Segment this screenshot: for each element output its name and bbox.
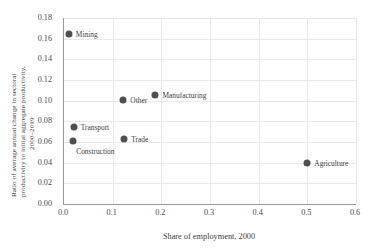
gridline-vertical [259, 18, 260, 204]
gridline-vertical [210, 18, 211, 204]
x-tick-label: 0.0 [50, 208, 76, 217]
data-point [120, 97, 127, 104]
gridline-horizontal [64, 80, 356, 81]
y-tick-label: 0.10 [38, 96, 52, 105]
data-point-label: Manufacturing [162, 90, 206, 99]
x-tick-label: 0.4 [245, 208, 271, 217]
y-axis-title-line-3: 2000–2019 [28, 117, 37, 150]
gridline-horizontal [64, 18, 356, 19]
x-tick-label: 0.5 [293, 208, 319, 217]
y-tick-label: 0.16 [38, 34, 52, 43]
gridline-vertical [307, 18, 308, 204]
y-tick-label: 0.12 [38, 75, 52, 84]
x-tick-label: 0.3 [196, 208, 222, 217]
gridline-vertical [356, 18, 357, 204]
data-point-label: Agriculture [314, 159, 348, 168]
y-tick-label: 0.04 [38, 158, 52, 167]
x-tick-label: 0.2 [147, 208, 173, 217]
y-axis-title-line-1: Ratio of average annual change in sector… [10, 73, 19, 197]
y-axis-title-line-2: productivity to initial aggregate produc… [19, 66, 28, 197]
y-tick-label: 0.14 [38, 54, 52, 63]
gridline-vertical [161, 18, 162, 204]
y-tick-label: 0.18 [38, 13, 52, 22]
x-tick-label: 0.1 [99, 208, 125, 217]
gridline-horizontal [64, 59, 356, 60]
data-point [152, 91, 159, 98]
scatter-chart: Ratio of average annual change in sector… [0, 0, 370, 251]
y-tick-label: 0.02 [38, 178, 52, 187]
data-point-label: Transport [81, 123, 109, 132]
gridline-horizontal [64, 39, 356, 40]
plot-area [63, 18, 356, 205]
gridline-horizontal [64, 101, 356, 102]
data-point [304, 160, 311, 167]
y-tick-label: 0.06 [38, 137, 52, 146]
y-tick-label: 0.08 [38, 116, 52, 125]
data-point [70, 124, 77, 131]
gridline-vertical [113, 18, 114, 204]
gridline-horizontal [64, 142, 356, 143]
x-tick-label: 0.6 [342, 208, 368, 217]
data-point-label: Trade [131, 134, 148, 143]
gridline-horizontal [64, 163, 356, 164]
data-point-label: Other [130, 96, 147, 105]
x-axis-title: Share of employment, 2000 [63, 232, 355, 241]
data-point [65, 31, 72, 38]
data-point [70, 138, 77, 145]
y-axis-title: Ratio of average annual change in sector… [0, 0, 22, 200]
y-tick-label: 0.00 [38, 199, 52, 208]
data-point-label: Construction [76, 147, 114, 156]
data-point-label: Mining [76, 30, 98, 39]
gridline-horizontal [64, 183, 356, 184]
data-point [121, 135, 128, 142]
